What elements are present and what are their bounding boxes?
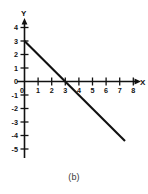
- x-tick-label: 5: [91, 86, 95, 95]
- y-tick-label: 1: [14, 64, 18, 73]
- x-tick-label: 4: [77, 86, 81, 95]
- x-tick-label: 7: [118, 86, 122, 95]
- y-tick-label: -1: [12, 91, 18, 100]
- x-tick-label: 2: [50, 86, 54, 95]
- x-tick-label: 0: [20, 86, 24, 95]
- x-tick-label: 8: [131, 86, 135, 95]
- y-tick-label: -4: [12, 131, 18, 140]
- figure-caption: (b): [0, 172, 148, 182]
- y-tick-label: 3: [14, 37, 18, 46]
- x-tick-labels: 0 1 2 3 4 5 6 7 8: [20, 86, 135, 95]
- x-tick-label: 1: [36, 86, 40, 95]
- y-tick-label: 4: [14, 23, 18, 32]
- y-tick-label: 2: [14, 50, 18, 59]
- y-tick-label: -2: [12, 104, 18, 113]
- y-axis-label: Y: [21, 9, 27, 18]
- y-axis-arrow-icon: [22, 18, 28, 25]
- coordinate-plane-plot: 0 1 2 3 4 5 6 7 8 4 3 2 1 0 -1 -2 -3 -4 …: [0, 0, 148, 194]
- y-tick-label: -5: [12, 145, 18, 154]
- x-axis-label: X: [140, 78, 146, 87]
- figure-container: 0 1 2 3 4 5 6 7 8 4 3 2 1 0 -1 -2 -3 -4 …: [0, 0, 148, 194]
- x-tick-label: 3: [63, 86, 67, 95]
- x-tick-label: 6: [104, 86, 108, 95]
- y-tick-label: -3: [12, 118, 18, 127]
- y-tick-labels: 4 3 2 1 0 -1 -2 -3 -4 -5: [12, 23, 18, 154]
- y-tick-label: 0: [14, 77, 18, 86]
